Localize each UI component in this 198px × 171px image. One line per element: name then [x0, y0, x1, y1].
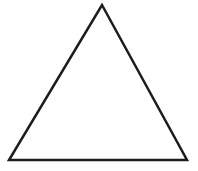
- triangle-figure: [0, 0, 198, 171]
- triangle-outline: [9, 5, 187, 160]
- drawing-canvas: [0, 0, 198, 171]
